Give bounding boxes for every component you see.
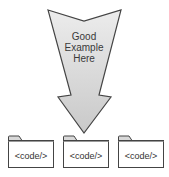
folder-icon [9,136,23,141]
folder-label: <code/> [15,151,48,161]
arrow-label-line-1: Good [72,31,96,42]
folder-label: <code/> [125,151,158,161]
diagram-canvas: Good Example Here <code/> <code/> <code/… [0,0,169,177]
code-folder-1: <code/> [9,136,54,168]
arrow-shape [48,10,121,133]
code-folder-3: <code/> [119,136,164,168]
code-folder-2: <code/> [64,136,109,168]
down-arrow: Good Example Here [48,10,121,133]
folder-icon [64,136,78,141]
folder-icon [119,136,133,141]
folder-label: <code/> [70,151,103,161]
arrow-label-line-2: Example [65,42,104,53]
arrow-label-line-3: Here [73,53,95,64]
